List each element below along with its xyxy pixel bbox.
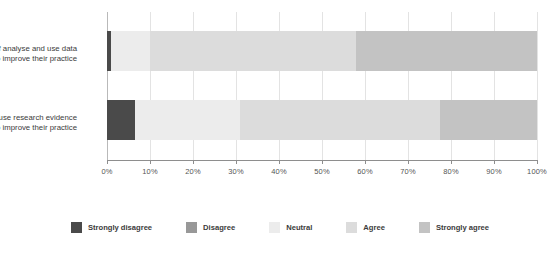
legend-item-strongly-agree[interactable]: Strongly agree (419, 222, 489, 233)
legend-item-disagree[interactable]: Disagree (186, 222, 235, 233)
category-label-0-line-0: Staff analyse and use data (0, 44, 77, 54)
x-axis-tick-label: 20% (185, 167, 201, 176)
x-axis-tick (236, 160, 237, 164)
legend-label: Disagree (203, 223, 235, 232)
x-axis-tick-label: 50% (314, 167, 330, 176)
legend-swatch-icon (71, 222, 82, 233)
gridline (537, 12, 538, 160)
x-axis-tick-label: 40% (271, 167, 287, 176)
bar-segment-strongly-agree (356, 31, 537, 71)
x-axis-tick (494, 160, 495, 164)
legend-label: Agree (363, 223, 385, 232)
x-axis-tick-label: 10% (142, 167, 158, 176)
legend-swatch-icon (419, 222, 430, 233)
x-axis-tick (451, 160, 452, 164)
x-axis-tick (279, 160, 280, 164)
legend-swatch-icon (186, 222, 197, 233)
legend-item-neutral[interactable]: Neutral (269, 222, 312, 233)
x-axis-tick (150, 160, 151, 164)
x-axis-tick-label: 90% (486, 167, 502, 176)
x-axis-tick-label: 80% (443, 167, 459, 176)
bar-segment-strongly-disagree (107, 100, 135, 140)
x-axis-tick (322, 160, 323, 164)
legend-item-strongly-disagree[interactable]: Strongly disagree (71, 222, 152, 233)
bar-segment-neutral (135, 100, 240, 140)
category-label-1-line-1: to improve their practice (0, 123, 77, 133)
bar-segment-agree (240, 100, 440, 140)
x-axis-tick-label: 60% (357, 167, 373, 176)
category-label-1-line-0: Staff use research evidence (0, 113, 77, 123)
legend-label: Strongly agree (436, 223, 489, 232)
stacked-bar-chart: 0%10%20%30%40%50%60%70%80%90%100% Staff … (0, 0, 560, 260)
legend-swatch-icon (346, 222, 357, 233)
x-axis-tick (537, 160, 538, 164)
legend-label: Neutral (286, 223, 312, 232)
bar-segment-strongly-agree (440, 100, 537, 140)
x-axis-tick-label: 30% (228, 167, 244, 176)
x-axis-tick (107, 160, 108, 164)
category-label-1: Staff use research evidence to improve t… (0, 113, 77, 133)
legend-item-agree[interactable]: Agree (346, 222, 385, 233)
x-axis-tick (193, 160, 194, 164)
chart-legend: Strongly disagreeDisagreeNeutralAgreeStr… (0, 222, 560, 233)
legend-label: Strongly disagree (88, 223, 152, 232)
x-axis-tick (408, 160, 409, 164)
x-axis-tick (365, 160, 366, 164)
bar-row (107, 31, 537, 71)
x-axis-tick-label: 100% (527, 167, 547, 176)
x-axis-tick-label: 0% (101, 167, 112, 176)
bar-segment-neutral (111, 31, 150, 71)
x-axis-tick-label: 70% (400, 167, 416, 176)
category-label-0-line-1: to improve their practice (0, 54, 77, 64)
bar-segment-agree (150, 31, 356, 71)
category-label-0: Staff analyse and use data to improve th… (0, 44, 77, 64)
legend-swatch-icon (269, 222, 280, 233)
bar-row (107, 100, 537, 140)
